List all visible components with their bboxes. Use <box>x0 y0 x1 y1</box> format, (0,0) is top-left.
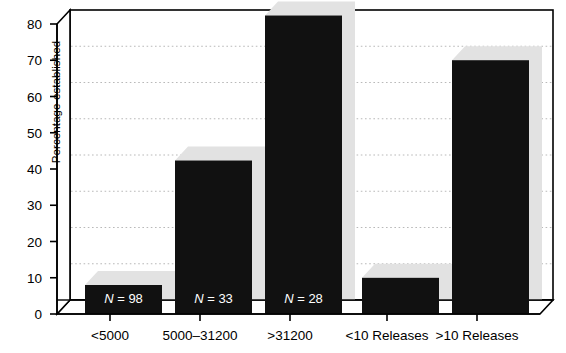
ytick-label-10: 10 <box>8 272 42 286</box>
bar-annotation-1: N = 33 <box>175 292 252 305</box>
bar-group-4 <box>362 264 452 314</box>
ytick-label-70: 70 <box>8 54 42 68</box>
bar-annotation-1-value: 33 <box>218 291 232 306</box>
bar-annotation-2-value: 28 <box>308 291 322 306</box>
ytick-label-80: 80 <box>8 18 42 32</box>
ytick-label-20: 20 <box>8 236 42 250</box>
bar-group-3 <box>265 2 355 315</box>
ytick-label-60: 60 <box>8 91 42 105</box>
bar-annotation-1-symbol: N <box>194 291 203 306</box>
bar-face-5 <box>452 60 529 314</box>
bar-annotation-2: N = 28 <box>265 292 342 305</box>
bar-face-4 <box>362 278 439 314</box>
bar-annotation-0: N = 98 <box>85 292 162 305</box>
ytick-label-50: 50 <box>8 127 42 141</box>
bar-annotation-2-equals: = <box>294 291 309 306</box>
y-axis-title: Percentage established <box>50 2 62 202</box>
bar-annotation-0-equals: = <box>114 291 129 306</box>
bar-face-3 <box>265 16 342 315</box>
bar-annotation-2-symbol: N <box>284 291 293 306</box>
chart-figure: Percentage established 0 10 20 30 40 50 … <box>0 0 566 353</box>
ytick-label-0: 0 <box>8 308 42 322</box>
ytick-label-30: 30 <box>8 199 42 213</box>
bar-annotation-0-value: 98 <box>128 291 142 306</box>
ytick-label-40: 40 <box>8 163 42 177</box>
bar-group-2 <box>175 147 265 315</box>
bar-group-5 <box>452 46 542 314</box>
xtick-label-4: >10 Releases <box>412 329 542 343</box>
bar-annotation-0-symbol: N <box>104 291 113 306</box>
bar-annotation-1-equals: = <box>204 291 219 306</box>
